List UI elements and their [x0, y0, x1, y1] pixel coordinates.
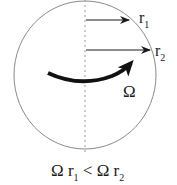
rotation-arrow	[48, 63, 131, 81]
caption-inequality: Ω r1 < Ω r2	[51, 162, 124, 179]
omega-label: Ω	[123, 83, 136, 100]
disk-diagram	[0, 0, 177, 185]
r2-label: r2	[155, 43, 165, 59]
r1-label: r1	[139, 10, 149, 26]
